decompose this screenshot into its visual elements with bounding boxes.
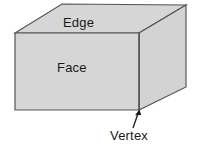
cuboid-diagram	[0, 0, 200, 154]
label-vertex: Vertex	[110, 129, 148, 142]
vertex-pointer-arrow	[133, 110, 141, 129]
label-edge: Edge	[63, 16, 94, 29]
cuboid-figure: Edge Face Vertex	[0, 0, 200, 154]
vertex-arrow-shaft	[133, 113, 138, 128]
label-face: Face	[57, 61, 87, 74]
